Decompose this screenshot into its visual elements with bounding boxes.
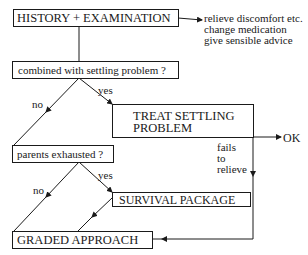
- relieve-word: relieve: [217, 164, 247, 175]
- parents-exhausted-label: parents exhausted ?: [17, 148, 103, 160]
- history-examination-label: HISTORY + EXAMINATION: [17, 11, 171, 25]
- ok-label: OK: [283, 132, 300, 144]
- no-label-2: no: [33, 185, 44, 196]
- side-notes: relieve discomfort etc. change medicatio…: [204, 13, 303, 46]
- parents-exhausted-box: parents exhausted ?: [12, 145, 114, 163]
- fails-to-relieve-label: fails to relieve: [217, 142, 247, 175]
- survival-package-box: SURVIVAL PACKAGE: [112, 192, 251, 207]
- combined-settling-problem-box: combined with settling problem ?: [12, 61, 179, 79]
- no-label-1: no: [32, 99, 43, 110]
- treat-label-line2: PROBLEM: [133, 122, 253, 134]
- yes-label-1: yes: [98, 85, 113, 96]
- yes-label-2: yes: [98, 170, 113, 181]
- survival-package-label: SURVIVAL PACKAGE: [119, 193, 235, 207]
- graded-approach-box: GRADED APPROACH: [12, 231, 153, 249]
- treat-settling-problem-box: TREAT SETTLING PROBLEM: [112, 104, 254, 138]
- side-note-advice: give sensible advice: [204, 35, 303, 46]
- combined-settling-problem-label: combined with settling problem ?: [18, 64, 166, 76]
- graded-approach-label: GRADED APPROACH: [17, 233, 138, 247]
- history-examination-box: HISTORY + EXAMINATION: [13, 9, 179, 27]
